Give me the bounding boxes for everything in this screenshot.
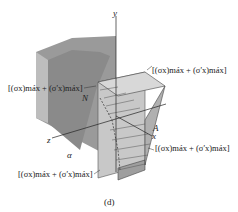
z-axis-label: z (47, 136, 51, 145)
y-axis-label: y (113, 9, 117, 18)
x-axis-label: x (152, 132, 156, 141)
stress-label-bottom-right: [(σx)máx + (σ'x)máx] (155, 144, 230, 153)
figure-caption: (d) (104, 198, 115, 207)
stress-label-top-right: [(σx)máx + (σ'x)máx] (152, 66, 227, 75)
angle-alpha-label: α (67, 151, 72, 160)
beam-stress-diagram (0, 0, 238, 212)
neutral-axis-n-label: N (82, 94, 88, 103)
stress-label-bottom-left: [(σx)máx + (σ'x)máx] (18, 170, 93, 179)
stress-label-top-left: [(σx)máx + (σ'x)máx] (8, 84, 83, 93)
point-a-label: A (153, 124, 159, 133)
